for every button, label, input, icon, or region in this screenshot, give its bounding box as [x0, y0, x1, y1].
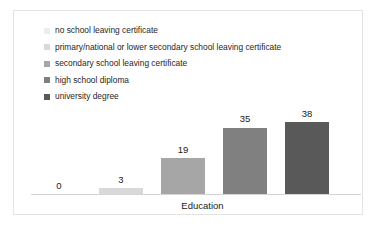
- legend-swatch-icon: [44, 44, 50, 50]
- bar: [223, 128, 267, 194]
- bar-group: 3: [93, 109, 149, 194]
- legend-swatch-icon: [44, 94, 50, 100]
- legend-item: no school leaving certificate: [44, 22, 356, 39]
- plot-area: 0 3 19 35 38: [31, 109, 347, 194]
- bar-value-label: 19: [155, 145, 211, 155]
- legend-item-label: primary/national or lower secondary scho…: [55, 43, 281, 51]
- x-axis-line: [31, 194, 361, 195]
- chart-legend: no school leaving certificate primary/na…: [44, 22, 356, 105]
- legend-item-label: secondary school leaving certificate: [55, 59, 187, 67]
- legend-swatch-icon: [44, 61, 50, 67]
- legend-swatch-icon: [44, 77, 50, 83]
- legend-item: university degree: [44, 88, 356, 105]
- bar: [285, 122, 329, 194]
- legend-swatch-icon: [44, 28, 50, 34]
- chart-frame: no school leaving certificate primary/na…: [13, 10, 363, 215]
- legend-item-label: no school leaving certificate: [55, 26, 158, 34]
- legend-item: secondary school leaving certificate: [44, 55, 356, 72]
- bar: [161, 158, 205, 194]
- bar-value-label: 35: [217, 114, 273, 124]
- bar-group: 19: [155, 109, 211, 194]
- legend-item: high school diploma: [44, 72, 356, 89]
- legend-item: primary/national or lower secondary scho…: [44, 39, 356, 56]
- x-axis-title: Education: [14, 200, 377, 211]
- bar-value-label: 38: [279, 109, 335, 119]
- legend-item-label: university degree: [55, 92, 119, 100]
- bar-value-label: 0: [31, 181, 87, 191]
- bar-group: 38: [279, 109, 335, 194]
- bar-value-label: 3: [93, 175, 149, 185]
- bar-group: 35: [217, 109, 273, 194]
- bar-group: 0: [31, 109, 87, 194]
- legend-item-label: high school diploma: [55, 76, 129, 84]
